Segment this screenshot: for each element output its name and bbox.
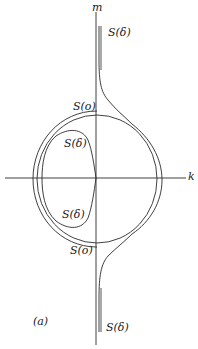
- circle-s0: [37, 115, 157, 243]
- label-s-delta-inner-lower: S(δ): [62, 209, 85, 220]
- label-s-zero-top: S(o): [73, 101, 96, 112]
- m-axis-label: m: [92, 2, 102, 13]
- label-s-delta-top: S(δ): [108, 27, 131, 38]
- label-s-delta-inner-upper: S(δ): [64, 138, 87, 149]
- phase-portrait-figure: m k S(δ) S(o) S(δ) S(δ) S(o) S(δ) (a): [0, 0, 198, 349]
- diagram-canvas: [0, 0, 198, 349]
- label-s-zero-bottom: S(o): [70, 245, 93, 256]
- separatrix-outer: [99, 26, 162, 332]
- panel-label: (a): [33, 316, 48, 327]
- label-s-delta-bottom: S(δ): [106, 322, 129, 333]
- k-axis-label: k: [188, 171, 195, 182]
